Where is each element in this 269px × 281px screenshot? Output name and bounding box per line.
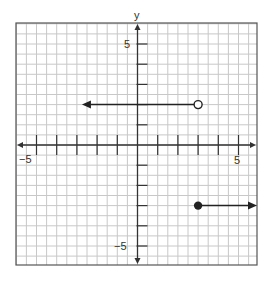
y-tick-label-5: 5 bbox=[124, 38, 130, 50]
x-tick-label-neg5: −5 bbox=[19, 153, 32, 165]
y-axis-label: y bbox=[134, 9, 140, 21]
x-tick-label-5: 5 bbox=[234, 154, 240, 166]
grid-lines bbox=[16, 23, 257, 265]
y-tick-label-neg5: −5 bbox=[114, 240, 127, 252]
axes bbox=[17, 24, 256, 264]
piecewise-function-graph: y −5 5 5 −5 bbox=[0, 0, 269, 281]
plot-frame bbox=[16, 23, 257, 265]
